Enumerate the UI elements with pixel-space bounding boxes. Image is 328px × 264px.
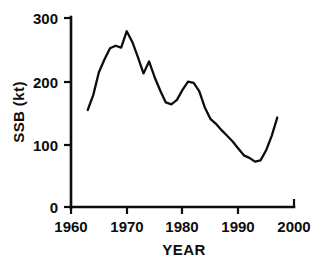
x-tick-label-1980: 1980 — [165, 218, 198, 235]
x-tick-label-1990: 1990 — [221, 218, 254, 235]
y-tick-label-200: 200 — [33, 74, 58, 91]
y-tick-label-300: 300 — [33, 10, 58, 27]
y-axis-title: SSB (kt) — [10, 81, 27, 143]
data-series-ssb — [88, 31, 278, 161]
x-tick-label-1970: 1970 — [110, 218, 143, 235]
x-tick-label-2000: 2000 — [277, 218, 310, 235]
y-tick-label-0: 0 — [50, 199, 58, 216]
chart-container: 300 200 100 0 1960 1970 1980 1990 2000 S… — [0, 0, 328, 264]
x-axis-title: YEAR — [162, 241, 205, 258]
x-tick-label-1960: 1960 — [54, 218, 87, 235]
line-chart: 300 200 100 0 1960 1970 1980 1990 2000 S… — [0, 0, 328, 264]
y-tick-label-100: 100 — [33, 137, 58, 154]
